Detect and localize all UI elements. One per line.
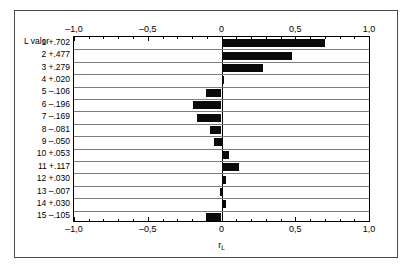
bar xyxy=(206,89,222,97)
tick-mark-bottom xyxy=(163,219,164,221)
bar xyxy=(222,200,226,208)
gridline xyxy=(74,211,369,212)
gridline xyxy=(74,62,369,63)
row-label: 8 –.081 xyxy=(24,124,72,135)
correlogram-figure: –1,0–0,500,51,0 –1,0–0,500,51,0 L valor … xyxy=(0,0,414,269)
bar xyxy=(206,213,221,221)
tick-mark-top xyxy=(354,37,355,39)
tick-mark-top xyxy=(118,37,119,39)
bar xyxy=(222,176,226,184)
tick-mark-top xyxy=(89,37,90,39)
tick-mark-bottom xyxy=(251,219,252,221)
row-label: 2 +.477 xyxy=(24,49,72,60)
gridline xyxy=(74,111,369,112)
row-label: 4 +.020 xyxy=(24,74,72,85)
row-label: 15 –.105 xyxy=(24,210,72,221)
axis-tick-label-bottom: –0,5 xyxy=(139,224,157,234)
tick-mark-top xyxy=(148,37,149,41)
tick-mark-bottom xyxy=(236,219,237,221)
gridline xyxy=(74,186,369,187)
tick-mark-top xyxy=(236,37,237,39)
tick-mark-top xyxy=(177,37,178,39)
tick-mark-bottom xyxy=(266,219,267,221)
tick-mark-bottom xyxy=(103,219,104,221)
gridline xyxy=(74,87,369,88)
axis-tick-label-top: –1,0 xyxy=(65,24,83,34)
bar xyxy=(222,39,326,47)
bar xyxy=(222,52,292,60)
tick-mark-top xyxy=(163,37,164,39)
bottom-axis-tick-labels: –1,0–0,500,51,0 xyxy=(0,224,414,236)
tick-mark-top xyxy=(133,37,134,39)
axis-tick-label-top: –0,5 xyxy=(139,24,157,34)
gridline xyxy=(74,99,369,100)
x-axis-label: rL xyxy=(218,240,225,250)
bar xyxy=(222,151,230,159)
tick-mark-bottom xyxy=(354,219,355,221)
x-axis-label-subscript: L xyxy=(221,244,225,251)
tick-mark-top xyxy=(266,37,267,39)
row-label: 3 +.279 xyxy=(24,62,72,73)
tick-mark-bottom xyxy=(295,217,296,221)
tick-mark-top xyxy=(281,37,282,39)
gridline xyxy=(74,136,369,137)
plot-area xyxy=(73,36,370,222)
gridline xyxy=(74,74,369,75)
row-label: 12 +.030 xyxy=(24,173,72,184)
bar xyxy=(222,76,225,84)
tick-mark-bottom xyxy=(177,219,178,221)
tick-mark-bottom xyxy=(89,219,90,221)
row-label: 14 +.030 xyxy=(24,198,72,209)
row-label-column: L valor 1 +.7022 +.4773 +.2794 +.0205 –.… xyxy=(24,36,72,222)
top-axis-tick-labels: –1,0–0,500,51,0 xyxy=(0,24,414,36)
tick-mark-bottom xyxy=(192,219,193,221)
tick-mark-bottom xyxy=(310,219,311,221)
axis-tick-label-top: 0,5 xyxy=(289,24,302,34)
axis-tick-label-top: 0 xyxy=(219,24,224,34)
tick-mark-top xyxy=(295,37,296,41)
tick-mark-bottom xyxy=(74,217,75,221)
tick-mark-top xyxy=(207,37,208,39)
tick-mark-top xyxy=(325,37,326,39)
tick-mark-top xyxy=(369,37,370,41)
bar xyxy=(222,64,263,72)
tick-mark-top xyxy=(310,37,311,39)
tick-mark-bottom xyxy=(325,219,326,221)
tick-mark-top xyxy=(192,37,193,39)
gridline xyxy=(74,124,369,125)
tick-mark-top xyxy=(74,37,75,41)
row-label: 9 –.050 xyxy=(24,136,72,147)
tick-mark-top xyxy=(251,37,252,39)
axis-tick-label-bottom: –1,0 xyxy=(65,224,83,234)
row-label: 7 –.169 xyxy=(24,111,72,122)
axis-tick-label-bottom: 0,5 xyxy=(289,224,302,234)
gridline xyxy=(74,49,369,50)
row-label: 5 –.106 xyxy=(24,86,72,97)
bar xyxy=(197,114,222,122)
tick-mark-bottom xyxy=(369,217,370,221)
tick-mark-bottom xyxy=(118,219,119,221)
axis-tick-label-top: 1,0 xyxy=(363,24,376,34)
bar xyxy=(222,163,239,171)
tick-mark-top xyxy=(222,37,223,41)
bar xyxy=(220,188,222,196)
row-label: 6 –.196 xyxy=(24,99,72,110)
axis-tick-label-bottom: 1,0 xyxy=(363,224,376,234)
row-label: 11 +.117 xyxy=(24,161,72,172)
bar xyxy=(214,138,221,146)
tick-mark-top xyxy=(340,37,341,39)
axis-tick-label-bottom: 0 xyxy=(219,224,224,234)
gridline xyxy=(74,198,369,199)
tick-mark-bottom xyxy=(340,219,341,221)
row-label: 10 +.053 xyxy=(24,148,72,159)
bar xyxy=(193,101,222,109)
row-label: 1 +.702 xyxy=(24,37,72,48)
tick-mark-bottom xyxy=(222,217,223,221)
bar xyxy=(210,126,222,134)
tick-mark-bottom xyxy=(148,217,149,221)
gridline xyxy=(74,173,369,174)
tick-mark-bottom xyxy=(207,219,208,221)
tick-mark-top xyxy=(103,37,104,39)
row-label: 13 –.007 xyxy=(24,186,72,197)
tick-mark-bottom xyxy=(281,219,282,221)
